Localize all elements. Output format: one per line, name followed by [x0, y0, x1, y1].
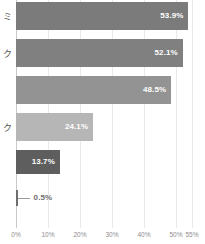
bar-value-label: 24.1% — [65, 113, 88, 141]
bar-value-label: 53.9% — [160, 2, 183, 30]
gridline — [192, 0, 193, 228]
bar-value-label: 13.7% — [32, 150, 55, 174]
category-label: ク — [0, 121, 12, 134]
bar-row: 53.9% — [16, 2, 192, 30]
x-tick-label: 20% — [73, 231, 86, 238]
value-leader-line — [18, 198, 30, 199]
category-label: ク — [0, 47, 12, 60]
x-tick-label: 50% — [169, 231, 182, 238]
bar-row: 52.1% — [16, 39, 192, 67]
bar-chart: 53.9%52.1%48.5%24.1%13.7%0.5% ミクク 0%10%2… — [0, 0, 205, 244]
bar-row: 48.5% — [16, 76, 192, 104]
bar-row: 24.1% — [16, 113, 192, 141]
plot-area: 53.9%52.1%48.5%24.1%13.7%0.5% ミクク — [0, 0, 205, 228]
bar-row: 0.5% — [16, 190, 192, 206]
bar-value-label: 48.5% — [143, 76, 166, 104]
bar-row: 13.7% — [16, 150, 192, 174]
x-axis: 0%10%20%30%40%50%55% — [0, 228, 205, 244]
x-tick-label: 0% — [11, 231, 20, 238]
bar-value-label: 0.5% — [30, 190, 53, 206]
x-tick-label: 55% — [185, 231, 198, 238]
x-tick-label: 30% — [105, 231, 118, 238]
x-tick-label: 40% — [137, 231, 150, 238]
category-label: ミ — [0, 10, 12, 23]
bar-value-label: 52.1% — [155, 39, 178, 67]
x-tick-label: 10% — [41, 231, 54, 238]
